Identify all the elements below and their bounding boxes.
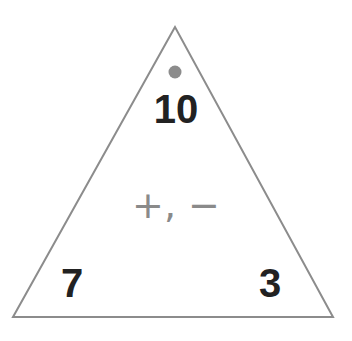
bottom-right-number: 3 xyxy=(259,261,281,305)
top-marker-dot xyxy=(169,66,182,79)
fact-triangle-diagram: 10 +, − 7 3 xyxy=(0,0,352,341)
bottom-left-number: 7 xyxy=(61,261,83,305)
top-number: 10 xyxy=(154,87,199,131)
operations-label: +, − xyxy=(132,183,220,227)
